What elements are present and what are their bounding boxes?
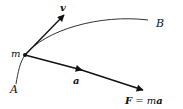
trajectory-curve <box>16 19 148 84</box>
label-force-a: a <box>156 95 162 106</box>
acceleration-arrow <box>25 55 82 70</box>
label-force-equation: F = ma <box>124 95 163 106</box>
label-a: a <box>73 75 79 86</box>
point-mass-dot <box>23 53 27 57</box>
label-v: v <box>60 2 66 13</box>
diagram-canvas: m v a A B F = ma <box>0 0 183 109</box>
label-A: A <box>9 83 18 96</box>
label-m: m <box>11 48 20 59</box>
force-arrow <box>80 70 143 91</box>
label-B: B <box>155 17 164 30</box>
label-equals-m: = m <box>132 95 156 106</box>
velocity-arrow <box>25 15 64 55</box>
